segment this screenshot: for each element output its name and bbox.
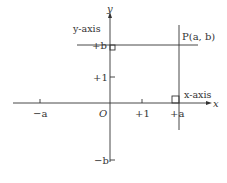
right-angle-marker-x bbox=[172, 96, 179, 103]
x-arrow-icon bbox=[206, 101, 212, 105]
tick-label-pos-a: +a bbox=[170, 108, 184, 119]
y-axis-name: y-axis bbox=[72, 23, 101, 34]
right-angle-marker-y bbox=[110, 45, 115, 50]
coordinate-diagram: y x y-axis x-axis P(a, b) O −a +1 +a +b … bbox=[0, 0, 227, 183]
x-label: x bbox=[213, 98, 219, 109]
tick-label-neg-a: −a bbox=[33, 108, 47, 119]
origin-label: O bbox=[99, 108, 107, 119]
x-axis-name: x-axis bbox=[184, 89, 211, 100]
tick-label-pos-b: +b bbox=[92, 40, 107, 51]
tick-label-pos-one-y: +1 bbox=[93, 72, 108, 83]
tick-label-neg-b: −b bbox=[94, 155, 109, 166]
point-label: P(a, b) bbox=[182, 31, 215, 42]
tick-label-pos-one-x: +1 bbox=[135, 108, 150, 119]
y-label: y bbox=[106, 3, 113, 14]
